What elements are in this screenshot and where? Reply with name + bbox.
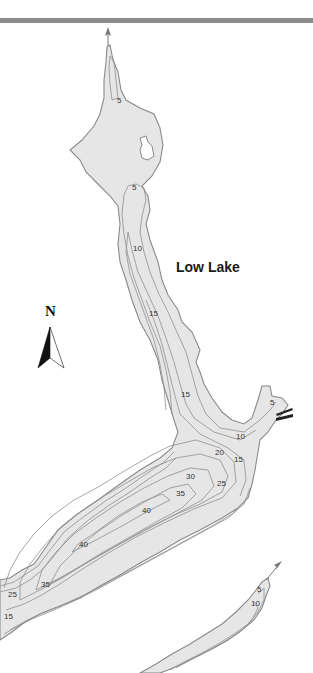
depth-label: 40 <box>142 506 151 515</box>
southeast-arm-shoreline <box>140 578 270 673</box>
lake-title: Low Lake <box>176 259 240 275</box>
depth-label: 15 <box>234 455 243 464</box>
depth-label: 25 <box>8 590 17 599</box>
lake-shoreline <box>0 45 288 640</box>
north-label: N <box>45 303 56 320</box>
inflow-arrow-north-icon <box>105 27 111 46</box>
inflow-arrow-southeast-icon <box>266 561 282 580</box>
depth-label: 10 <box>236 432 245 441</box>
depth-label: 10 <box>251 599 260 608</box>
depth-label: 35 <box>176 489 185 498</box>
north-arrow-icon <box>38 327 64 368</box>
depth-label: 25 <box>217 479 226 488</box>
depth-label: 15 <box>4 612 13 621</box>
depth-label: 5 <box>132 183 137 192</box>
depth-label: 5 <box>257 585 262 594</box>
depth-label: 20 <box>215 448 224 457</box>
depth-label: 15 <box>149 309 158 318</box>
depth-label: 30 <box>186 472 195 481</box>
depth-label: 5 <box>117 96 122 105</box>
depth-label: 35 <box>41 580 50 589</box>
lake-map: 5 5 10 15 15 5 10 20 15 30 25 35 40 40 3… <box>0 0 313 673</box>
depth-label: 15 <box>181 390 190 399</box>
depth-label: 5 <box>270 398 275 407</box>
depth-label: 10 <box>133 244 142 253</box>
depth-label: 40 <box>79 540 88 549</box>
